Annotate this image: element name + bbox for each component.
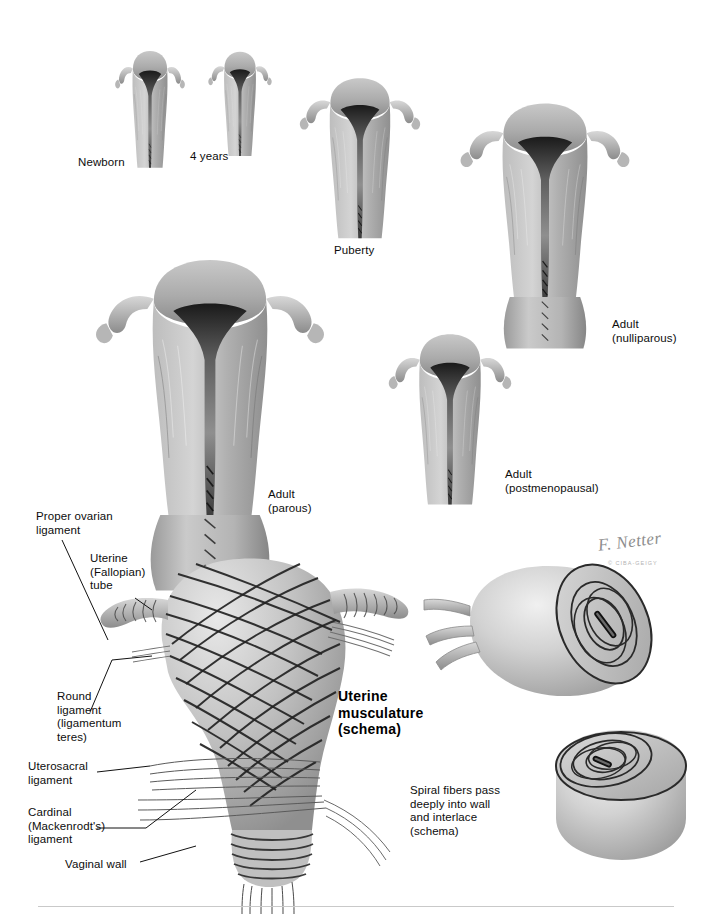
figure-musculature-ball: [424, 549, 669, 698]
label-adult-parous: Adult (parous): [268, 488, 312, 515]
callout-vaginal-wall: Vaginal wall: [65, 858, 127, 872]
label-adult-nulliparous: Adult (nulliparous): [612, 318, 677, 345]
artist-signature-copyright: © CIBA-GEIGY: [608, 560, 658, 566]
figure-four-years: [208, 52, 271, 156]
uterus-plate-artwork: [0, 0, 711, 922]
label-adult-postmenopausal: Adult (postmenopausal): [505, 468, 599, 495]
label-four-years: 4 years: [190, 150, 228, 164]
figure-adult-nulliparous: [461, 104, 630, 349]
schema-cervix: [231, 830, 313, 887]
figure-puberty: [300, 78, 420, 238]
callout-proper-ovarian-ligament: Proper ovarian ligament: [36, 510, 113, 537]
callout-uterine-fallopian-tube: Uterine (Fallopian) tube: [90, 552, 145, 593]
schema-heading: Uterine musculature (schema): [338, 688, 423, 738]
figure-newborn: [115, 51, 185, 168]
figure-adult-postmenopausal: [389, 334, 511, 504]
schema-tube-left: [100, 598, 168, 628]
figure-adult-parous: [96, 260, 324, 590]
footer-rule: [38, 906, 674, 907]
callout-cardinal-ligament: Cardinal (Mackenrodt's) ligament: [28, 806, 105, 847]
callout-uterosacral-ligament: Uterosacral ligament: [28, 760, 88, 787]
illustration-plate: Newborn 4 years Puberty Adult (nulliparo…: [0, 0, 711, 922]
figure-musculature-cylinder: [556, 726, 686, 860]
callout-round-ligament: Round ligament (ligamentum teres): [57, 690, 121, 744]
label-puberty: Puberty: [334, 244, 374, 258]
schema-caption: Spiral fibers pass deeply into wall and …: [410, 784, 500, 838]
label-newborn: Newborn: [78, 156, 125, 170]
